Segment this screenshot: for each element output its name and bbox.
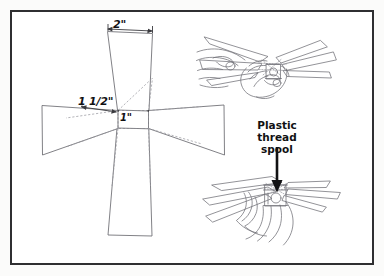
blade2-upper-right <box>284 181 330 188</box>
pinwheel-pattern <box>42 24 225 236</box>
callout-label-plastic-thread-spool: Plastic thread spool <box>244 120 310 156</box>
illustration-hand-holding-spool <box>203 177 340 246</box>
dimension-label-arm-length: 1 1/2" <box>78 96 113 108</box>
callout-line-3: spool <box>244 144 310 156</box>
pattern-arm-bottom <box>108 128 152 236</box>
blade-upper-left <box>205 37 269 62</box>
illustration-hands-assembling <box>197 37 337 99</box>
dimension-label-center-square: 1" <box>120 113 132 124</box>
blade2-lower-left <box>206 194 272 222</box>
pattern-arm-left <box>42 106 118 156</box>
diagram-artwork <box>0 0 384 276</box>
blade-right <box>282 52 336 71</box>
thumb <box>246 206 263 239</box>
diagram-page: 2" 1 1/2" 1" Plastic thread spool <box>0 0 384 276</box>
dimension-label-top-width: 2" <box>113 19 126 31</box>
pattern-arm-right <box>149 105 225 155</box>
blade-lower-right <box>283 71 331 79</box>
blade2-upper-left <box>212 177 282 191</box>
blade2-right <box>286 189 341 199</box>
finger-1 <box>237 193 246 220</box>
blade2-lower-right <box>282 196 326 213</box>
palm-edge <box>284 202 294 245</box>
